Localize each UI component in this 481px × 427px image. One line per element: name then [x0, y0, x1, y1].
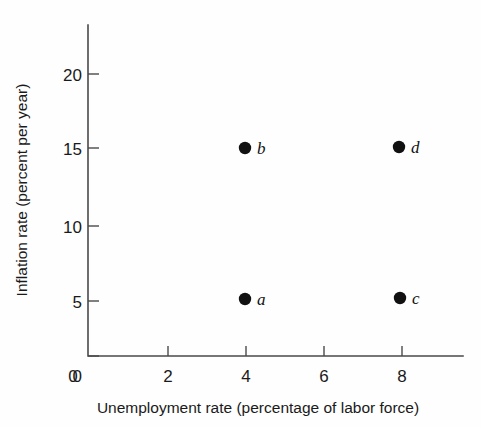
data-point-label-d: d [411, 138, 420, 157]
axis-lines [88, 25, 463, 356]
chart-canvas: 20 15 10 5 0 0 2 4 6 8 b d a c Inflation… [0, 0, 481, 427]
x-tick-label-6: 6 [319, 367, 328, 386]
y-axis-title: Inflation rate (percent per year) [13, 84, 30, 297]
data-point-c[interactable] [394, 292, 406, 304]
x-tick-label-2: 2 [163, 367, 172, 386]
data-point-label-b: b [257, 139, 266, 158]
x-axis-title: Unemployment rate (percentage of labor f… [97, 399, 419, 416]
data-point-d[interactable] [393, 141, 405, 153]
y-tick-label-15: 15 [63, 140, 82, 159]
y-tick-label-5: 5 [73, 293, 82, 312]
x-tick-label-8: 8 [397, 367, 406, 386]
x-tick-label-4: 4 [241, 367, 250, 386]
data-point-label-a: a [257, 290, 266, 309]
y-tick-label-10: 10 [63, 218, 82, 237]
x-tick-label-0: 0 [68, 367, 77, 386]
scatter-chart: 20 15 10 5 0 0 2 4 6 8 b d a c Inflation… [0, 0, 481, 427]
data-point-b[interactable] [239, 142, 251, 154]
data-point-a[interactable] [239, 293, 251, 305]
data-point-label-c: c [412, 289, 420, 308]
y-tick-label-20: 20 [63, 66, 82, 85]
